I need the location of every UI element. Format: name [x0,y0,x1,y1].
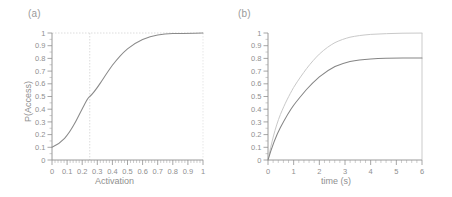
svg-text:1: 1 [41,29,45,38]
panel-b-upper-curve [268,33,422,160]
svg-text:0.2: 0.2 [35,130,45,139]
svg-text:0.3: 0.3 [92,167,102,176]
svg-text:0: 0 [257,156,261,165]
svg-text:0.9: 0.9 [35,41,45,50]
svg-text:0.8: 0.8 [35,54,45,63]
svg-text:0: 0 [41,156,45,165]
panel-b-x-axis-title: time (s) [321,176,351,186]
panel-a-sigmoid-curve [52,33,203,147]
panel-b-lower-curve [268,58,422,160]
svg-text:0.8: 0.8 [168,167,178,176]
svg-text:1: 1 [257,29,261,38]
svg-text:5: 5 [394,167,398,176]
panel-a-x-axis-title: Activation [95,176,134,186]
svg-text:0.2: 0.2 [251,130,261,139]
svg-text:0.1: 0.1 [251,143,261,152]
panel-a-plot: 1 0.9 0.8 0.7 0.6 0.5 0.4 0.3 0.2 0.1 [0,0,226,197]
svg-text:0.7: 0.7 [35,67,45,76]
svg-text:0: 0 [50,167,54,176]
svg-text:1: 1 [292,167,296,176]
panel-a-y-axis-title: P(Access) [23,81,33,122]
svg-text:0.7: 0.7 [152,167,162,176]
svg-text:0.6: 0.6 [251,79,261,88]
panel-b: (b) 1 0.9 0.8 0.7 0.6 0.5 0.4 [226,0,452,197]
svg-text:0.2: 0.2 [77,167,87,176]
panel-b-x-ticks: 0 1 2 3 4 5 6 [266,160,424,176]
svg-text:2: 2 [317,167,321,176]
svg-text:0.4: 0.4 [251,105,261,114]
svg-text:6: 6 [420,167,424,176]
svg-text:0.5: 0.5 [122,167,132,176]
panel-b-plot: 1 0.9 0.8 0.7 0.6 0.5 0.4 0.3 0.2 0.1 [226,0,452,197]
panel-a-y-ticks: 1 0.9 0.8 0.7 0.6 0.5 0.4 0.3 0.2 0.1 [35,29,52,165]
svg-text:3: 3 [343,167,347,176]
svg-text:1: 1 [201,167,205,176]
svg-text:0.9: 0.9 [183,167,193,176]
panel-a-reference-lines [52,33,203,160]
svg-text:0.9: 0.9 [251,41,261,50]
svg-text:0.3: 0.3 [251,118,261,127]
svg-text:0.4: 0.4 [35,105,45,114]
svg-text:0.5: 0.5 [35,92,45,101]
svg-text:0.3: 0.3 [35,118,45,127]
svg-text:4: 4 [369,167,373,176]
panel-a: (a) 1 0.9 0.8 0.7 [0,0,226,197]
figure-container: (a) 1 0.9 0.8 0.7 [0,0,452,197]
svg-text:0.1: 0.1 [62,167,72,176]
svg-text:0.7: 0.7 [251,67,261,76]
svg-text:0.5: 0.5 [251,92,261,101]
panel-b-y-ticks: 1 0.9 0.8 0.7 0.6 0.5 0.4 0.3 0.2 0.1 [251,29,268,165]
svg-text:0.1: 0.1 [35,143,45,152]
svg-text:0: 0 [266,167,270,176]
svg-text:0.6: 0.6 [137,167,147,176]
svg-text:0.4: 0.4 [107,167,117,176]
svg-text:0.8: 0.8 [251,54,261,63]
svg-text:0.6: 0.6 [35,79,45,88]
